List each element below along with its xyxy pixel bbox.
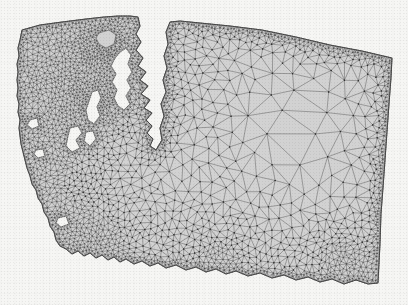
figure-root bbox=[0, 0, 408, 305]
triangular-mesh-figure bbox=[0, 0, 408, 305]
